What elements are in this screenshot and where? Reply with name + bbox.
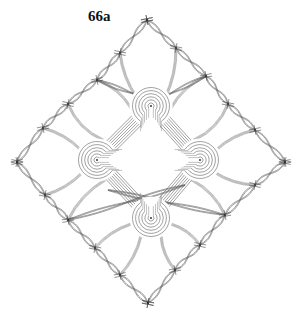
ground-thread bbox=[119, 235, 140, 274]
braid-thread bbox=[68, 220, 95, 248]
braid-thread bbox=[228, 104, 255, 130]
outer-border-braids bbox=[17, 20, 286, 304]
braid-thread bbox=[17, 162, 45, 195]
ground-thread bbox=[68, 180, 105, 220]
braid-thread bbox=[200, 215, 225, 245]
braid-thread bbox=[200, 215, 225, 245]
braid-thread bbox=[176, 48, 206, 76]
braid-thread bbox=[45, 195, 68, 220]
ground-thread bbox=[195, 105, 229, 141]
pinhole-marker bbox=[62, 99, 74, 109]
ground-threads bbox=[42, 48, 255, 276]
braid-thread bbox=[225, 185, 255, 215]
braid-thread bbox=[68, 80, 97, 104]
braid-thread bbox=[120, 20, 147, 53]
braid-thread bbox=[45, 195, 68, 220]
pinhole-marker bbox=[170, 43, 182, 53]
ground-thread bbox=[67, 105, 102, 141]
braid-thread bbox=[68, 80, 97, 104]
braid-thread bbox=[147, 20, 176, 48]
spider-rings bbox=[75, 84, 221, 239]
pinhole-marker bbox=[62, 215, 74, 225]
braid-thread bbox=[206, 76, 228, 104]
braid-thread bbox=[95, 248, 120, 275]
ground-thread bbox=[120, 236, 141, 275]
braid-thread bbox=[95, 248, 120, 275]
braid-thread bbox=[255, 130, 285, 162]
braid-thread bbox=[97, 53, 120, 80]
ground-thread bbox=[69, 103, 104, 139]
ground-thread bbox=[192, 180, 225, 215]
ground-thread bbox=[216, 130, 255, 150]
ground-thread bbox=[171, 224, 200, 245]
braid-thread bbox=[148, 270, 175, 303]
braid-thread bbox=[206, 76, 228, 104]
spider-center-dot bbox=[150, 217, 152, 219]
ground-thread bbox=[69, 181, 106, 221]
spider-center-dot bbox=[150, 105, 152, 107]
braid-thread bbox=[43, 104, 68, 128]
pinhole-marker bbox=[279, 157, 291, 167]
ground-thread bbox=[217, 131, 256, 151]
braid-thread bbox=[120, 20, 147, 53]
pinholes bbox=[11, 15, 291, 308]
braid-thread bbox=[175, 245, 200, 270]
ground-thread bbox=[97, 80, 131, 108]
braid-thread bbox=[255, 162, 285, 185]
ground-thread bbox=[97, 80, 131, 108]
ground-thread bbox=[68, 104, 103, 140]
braid-thread bbox=[176, 48, 206, 76]
ground-thread bbox=[194, 104, 228, 140]
ground-thread bbox=[193, 103, 227, 139]
braid-thread bbox=[255, 130, 285, 162]
spider-center-dot bbox=[199, 159, 201, 161]
braid-thread bbox=[255, 162, 285, 185]
braid-thread bbox=[43, 104, 68, 128]
braid-thread bbox=[68, 220, 95, 248]
ground-thread bbox=[172, 77, 207, 109]
ground-thread bbox=[45, 172, 83, 195]
ground-thread bbox=[194, 104, 228, 140]
braid-thread bbox=[148, 270, 175, 303]
braid-thread bbox=[97, 53, 120, 80]
braid-thread bbox=[17, 128, 43, 162]
braid-thread bbox=[147, 20, 176, 48]
ground-thread bbox=[68, 104, 103, 140]
braid-thread bbox=[228, 104, 255, 130]
braid-thread bbox=[120, 275, 148, 303]
braid-thread bbox=[175, 245, 200, 270]
ground-thread bbox=[96, 225, 132, 249]
braid-thread bbox=[17, 162, 45, 195]
spider-center-dot bbox=[96, 159, 98, 161]
braid-thread bbox=[225, 185, 255, 215]
braid-thread bbox=[17, 128, 43, 162]
ground-thread bbox=[171, 76, 206, 108]
ground-thread bbox=[95, 224, 131, 248]
ground-thread bbox=[44, 171, 82, 194]
braid-thread bbox=[120, 275, 148, 303]
ground-thread bbox=[43, 128, 81, 150]
ground-thread bbox=[42, 129, 80, 151]
lace-diagram bbox=[0, 0, 302, 318]
